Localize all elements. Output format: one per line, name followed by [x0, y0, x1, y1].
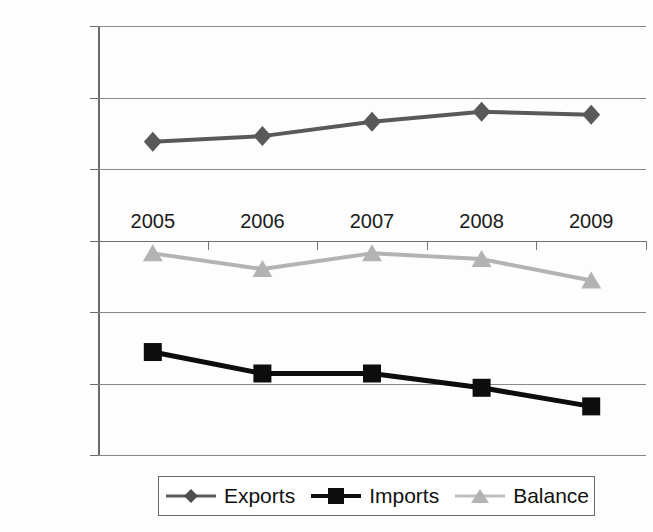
x-axis-category-label: 2008 [459, 210, 504, 233]
x-axis-tick [208, 241, 209, 250]
x-axis-tick [98, 241, 99, 250]
x-axis-category-label: 2006 [240, 210, 285, 233]
legend-label-exports: Exports [224, 484, 295, 508]
line-chart: 150001000050000−5000−10000−1500020052006… [0, 0, 653, 532]
y-axis-tick [90, 455, 98, 456]
x-axis-category-label: 2005 [131, 210, 176, 233]
legend-entry-imports[interactable]: Imports [309, 484, 439, 508]
gridline [98, 455, 646, 456]
gridline [98, 26, 646, 27]
gridline [98, 312, 646, 313]
chart-legend: Exports Imports Balance [158, 476, 595, 516]
gridline [98, 98, 646, 99]
y-axis-tick [90, 169, 98, 170]
x-axis-tick [317, 241, 318, 250]
y-axis-tick [90, 384, 98, 385]
gridline [98, 384, 646, 385]
square-marker-icon [309, 486, 363, 506]
x-axis-tick [646, 241, 647, 250]
y-axis-tick [90, 312, 98, 313]
legend-entry-exports[interactable]: Exports [164, 484, 295, 508]
legend-label-imports: Imports [369, 484, 439, 508]
x-axis-tick [427, 241, 428, 250]
y-axis-tick [90, 26, 98, 27]
plot-area [98, 26, 646, 455]
legend-entry-balance[interactable]: Balance [453, 484, 589, 508]
y-axis-tick [90, 241, 98, 242]
x-axis-tick [536, 241, 537, 250]
zero-line [98, 241, 646, 242]
legend-label-balance: Balance [513, 484, 589, 508]
triangle-marker-icon [453, 486, 507, 506]
y-axis-tick [90, 98, 98, 99]
diamond-marker-icon [164, 486, 218, 506]
x-axis-category-label: 2007 [350, 210, 395, 233]
gridline [98, 169, 646, 170]
x-axis-category-label: 2009 [569, 210, 614, 233]
